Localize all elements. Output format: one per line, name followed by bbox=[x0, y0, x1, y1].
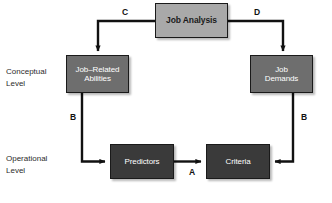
node-criteria[interactable]: Criteria bbox=[206, 144, 270, 179]
connector-b-right bbox=[275, 93, 293, 162]
node-job-related-abilities-label-line1: Job–Related bbox=[76, 65, 120, 74]
diagram-canvas: Job Analysis Job–Related Abilities Job D… bbox=[0, 0, 332, 203]
node-predictors[interactable]: Predictors bbox=[110, 144, 174, 179]
edge-label-d: D bbox=[254, 8, 260, 17]
edge-label-a: A bbox=[189, 168, 195, 177]
level-label-conceptual: Conceptual Level bbox=[6, 66, 46, 89]
edge-label-b-right: B bbox=[301, 113, 307, 122]
node-job-related-abilities[interactable]: Job–Related Abilities bbox=[66, 55, 129, 93]
level-label-conceptual-line2: Level bbox=[6, 78, 46, 90]
node-job-demands[interactable]: Job Demands bbox=[250, 55, 313, 93]
level-label-operational-line2: Level bbox=[6, 165, 47, 177]
node-job-demands-label-line1: Job bbox=[275, 65, 288, 74]
connector-b-left bbox=[82, 93, 105, 162]
connector-c bbox=[98, 21, 155, 51]
level-label-conceptual-line1: Conceptual bbox=[6, 66, 46, 78]
level-label-operational-line1: Operational bbox=[6, 153, 47, 165]
node-job-analysis-label: Job Analysis bbox=[166, 15, 217, 25]
connector-d bbox=[228, 21, 283, 51]
level-label-operational: Operational Level bbox=[6, 153, 47, 176]
edge-label-b-left: B bbox=[70, 113, 76, 122]
node-predictors-label: Predictors bbox=[124, 157, 159, 166]
node-job-demands-label-line2: Demands bbox=[265, 74, 299, 83]
node-job-analysis[interactable]: Job Analysis bbox=[155, 3, 228, 38]
node-job-related-abilities-label-line2: Abilities bbox=[84, 74, 111, 83]
node-criteria-label: Criteria bbox=[226, 157, 251, 166]
edge-label-c: C bbox=[122, 8, 128, 17]
